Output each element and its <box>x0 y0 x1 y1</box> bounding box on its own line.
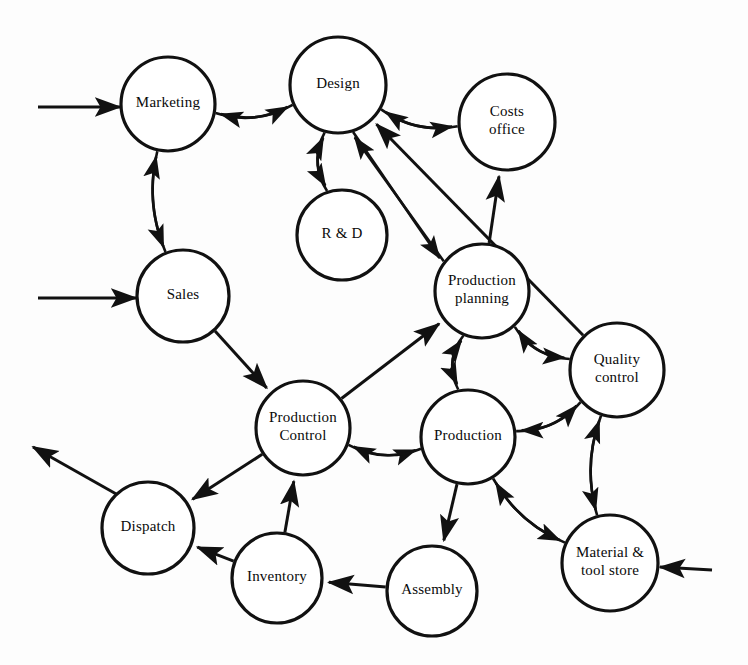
node-label-line: Control <box>279 427 326 443</box>
external-in-material-store <box>660 567 712 570</box>
node-inventory[interactable]: Inventory <box>232 533 322 623</box>
node-label-line: Dispatch <box>121 518 176 534</box>
node-sales[interactable]: Sales <box>137 250 229 342</box>
edge-production-to-production-control <box>354 447 421 456</box>
node-label-design: Design <box>316 75 360 91</box>
node-label-line: office <box>489 121 525 137</box>
node-label-line: planning <box>455 290 509 306</box>
node-label-dispatch: Dispatch <box>121 518 176 534</box>
node-label-line: Marketing <box>136 94 201 110</box>
edge-sales-to-production-control <box>215 331 267 388</box>
diagram-canvas: MarketingDesignCostsofficeR & DSalesProd… <box>0 0 748 665</box>
edge-inventory-to-dispatch <box>197 547 233 561</box>
node-label-line: Inventory <box>247 568 307 584</box>
node-design[interactable]: Design <box>290 37 386 133</box>
node-material-tool-store[interactable]: Material &tool store <box>562 515 658 611</box>
node-label-assembly: Assembly <box>401 581 463 597</box>
edge-sales-to-marketing <box>153 157 166 252</box>
node-assembly[interactable]: Assembly <box>387 546 477 636</box>
node-label-line: Production <box>434 427 502 443</box>
flow-diagram: MarketingDesignCostsofficeR & DSalesProd… <box>0 0 748 665</box>
edge-production-control-to-dispatch <box>193 454 263 499</box>
node-production-planning[interactable]: Productionplanning <box>435 244 529 338</box>
node-label-line: Quality <box>594 351 641 367</box>
node-label-line: Material & <box>576 544 644 560</box>
node-production[interactable]: Production <box>421 390 515 484</box>
edge-quality-control-to-production <box>522 402 581 430</box>
edge-production-control-to-production-planning <box>342 324 440 399</box>
node-label-line: tool store <box>581 562 639 578</box>
node-label-line: Sales <box>167 286 200 302</box>
edge-production-to-assembly <box>444 484 457 540</box>
node-label-sales: Sales <box>167 286 200 302</box>
node-label-line: Design <box>316 75 360 91</box>
edge-production-planning-to-costs-office <box>489 176 499 243</box>
node-costs-office[interactable]: Costsoffice <box>459 74 555 170</box>
nodes-layer: MarketingDesignCostsofficeR & DSalesProd… <box>102 37 664 636</box>
node-label-marketing: Marketing <box>136 94 201 110</box>
edge-inventory-to-production-control <box>285 481 294 532</box>
edge-production-planning-to-quality-control <box>515 327 565 358</box>
node-label-line: Assembly <box>401 581 463 597</box>
edge-quality-control-to-production-planning <box>519 331 570 359</box>
node-rd[interactable]: R & D <box>297 190 387 280</box>
node-label-rd: R & D <box>321 225 362 241</box>
node-label-inventory: Inventory <box>247 568 307 584</box>
node-label-line: R & D <box>321 225 362 241</box>
edge-production-to-material-tool-store <box>493 479 560 541</box>
node-label-line: Costs <box>490 103 524 119</box>
node-production-control[interactable]: ProductionControl <box>256 381 350 475</box>
edge-assembly-to-inventory <box>329 582 386 587</box>
node-dispatch[interactable]: Dispatch <box>102 482 194 574</box>
node-marketing[interactable]: Marketing <box>121 57 215 151</box>
node-quality-control[interactable]: Qualitycontrol <box>570 323 664 417</box>
node-label-production: Production <box>434 427 502 443</box>
edge-material-tool-store-to-quality-control <box>591 421 600 515</box>
node-label-line: Production <box>448 272 516 288</box>
edge-material-tool-store-to-production <box>496 483 565 542</box>
node-label-line: Production <box>269 409 337 425</box>
node-label-line: control <box>595 369 639 385</box>
external-out-dispatch <box>33 447 118 495</box>
edge-design-to-marketing <box>221 105 293 118</box>
